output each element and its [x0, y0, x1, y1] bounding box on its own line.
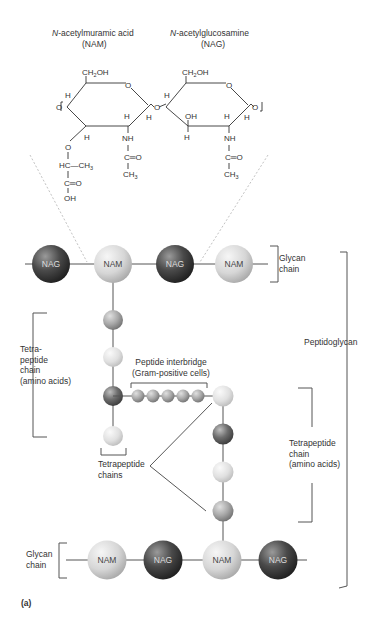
panel-label: (a)	[21, 598, 31, 609]
svg-text:C═O: C═O	[124, 153, 142, 162]
svg-text:CH3: CH3	[224, 170, 239, 180]
right-tetrapeptide-label: Tetrapeptide chain (amino acids)	[289, 438, 340, 470]
nam-title: N-acetylmuramic acid	[52, 28, 134, 39]
bottom-glycan-chain: NAM NAG NAM NAG	[66, 541, 307, 580]
nam-abbr: (NAM)	[82, 39, 107, 50]
ball-label: NAG	[42, 259, 60, 269]
amino-acid-sphere	[103, 426, 123, 446]
interbridge-label: Peptide interbridge (Gram-positive cells…	[132, 357, 210, 378]
amino-acid-sphere	[213, 501, 234, 522]
nag-ring-structure	[159, 76, 262, 169]
svg-text:OH: OH	[185, 112, 197, 121]
nam-ring-structure	[61, 76, 154, 193]
ball-label: NAG	[166, 259, 184, 269]
nam-chem-labels: CH2OH O H O H H H NH C═O CH3 O HC—CH3 C═…	[56, 68, 160, 203]
tetrapeptide-pointer-lines	[150, 403, 212, 511]
amino-acid-sphere	[103, 347, 123, 367]
svg-text:H: H	[224, 112, 230, 121]
peptidoglycan-diagram: CH2OH O H O H H H NH C═O CH3 O HC—CH3 C═…	[0, 0, 374, 630]
ball-label: NAG	[154, 555, 172, 565]
svg-text:O: O	[56, 103, 62, 112]
svg-text:H: H	[84, 133, 90, 142]
nam-name: -acetylmuramic acid	[58, 28, 134, 38]
ball-label: NAM	[213, 555, 232, 565]
peptidoglycan-label: Peptidoglycan	[304, 337, 357, 348]
ball-label: NAM	[225, 259, 244, 269]
amino-acid-sphere	[103, 310, 123, 330]
nag-abbr: (NAG)	[201, 39, 225, 50]
svg-text:H: H	[184, 133, 190, 142]
svg-text:HC—CH3: HC—CH3	[59, 161, 93, 171]
tetrapeptide-chains-label: Tetrapeptide chains	[98, 459, 145, 480]
svg-text:O: O	[65, 143, 71, 152]
svg-text:CH3: CH3	[123, 170, 138, 180]
svg-text:H: H	[65, 91, 71, 100]
ball-label: NAM	[98, 555, 117, 565]
ball-label: NAG	[269, 555, 287, 565]
svg-text:OH: OH	[64, 194, 76, 203]
svg-text:O: O	[125, 81, 131, 90]
svg-text:O: O	[154, 103, 160, 112]
bottom-glycan-chain-label: Glycan chain	[26, 549, 52, 570]
svg-text:C═O: C═O	[64, 179, 82, 188]
svg-text:H: H	[124, 112, 130, 121]
left-tetrapeptide-label: Tetra- peptide chain (amino acids)	[20, 344, 71, 386]
nag-name: -acetylglucosamine	[176, 28, 249, 38]
svg-text:H: H	[164, 91, 170, 100]
amino-acid-sphere	[213, 462, 234, 483]
nag-chem-labels: CH2OH O H OH H H H NH C═O CH3 O	[164, 68, 258, 180]
amino-acid-sphere	[213, 386, 234, 407]
top-glycan-chain-label: Glycan chain	[279, 253, 305, 274]
svg-text:O: O	[226, 81, 232, 90]
svg-text:NH: NH	[224, 134, 236, 143]
brackets	[33, 246, 347, 588]
svg-text:H: H	[146, 113, 152, 122]
ball-label: NAM	[104, 259, 123, 269]
nag-title: N-acetylglucosamine	[170, 28, 249, 39]
peptide-interbridge	[113, 390, 222, 403]
svg-text:C═O: C═O	[225, 153, 243, 162]
svg-text:NH: NH	[122, 134, 134, 143]
right-tetrapeptide-chain	[213, 386, 234, 561]
amino-acid-sphere	[213, 424, 234, 445]
svg-text:O: O	[252, 103, 258, 112]
svg-text:CH2OH: CH2OH	[82, 68, 109, 78]
svg-text:CH2OH: CH2OH	[182, 68, 209, 78]
svg-text:H: H	[244, 113, 250, 122]
